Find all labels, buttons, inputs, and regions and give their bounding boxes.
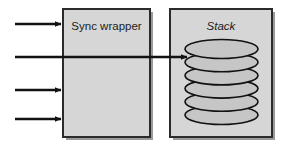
stack-element-1 — [185, 40, 258, 59]
stack-box: Stack — [170, 9, 275, 140]
diagram-canvas: Sync wrapper Stack — [0, 0, 284, 146]
diagram-svg: Sync wrapper Stack — [0, 0, 284, 146]
sync-wrapper-box: Sync wrapper — [63, 9, 153, 140]
stack-label: Stack — [207, 20, 237, 32]
sync-wrapper-label: Sync wrapper — [71, 20, 141, 32]
stack-elements — [185, 40, 258, 125]
